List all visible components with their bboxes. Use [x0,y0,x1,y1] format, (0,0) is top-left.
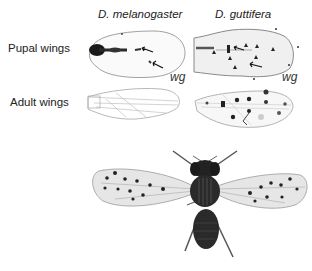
gene-label-wg-guttifera: wg [282,70,297,84]
column-header-guttifera: D. guttifera [215,8,271,20]
row-label-adult-wings: Adult wings [10,96,69,108]
row-label-pupal-wings: Pupal wings [8,42,70,54]
gene-label-wg-melanogaster: wg [170,70,185,84]
adult-wing-melanogaster-image [86,87,186,127]
adult-fly-image [85,143,312,271]
adult-wing-guttifera-image [193,87,298,132]
column-header-melanogaster: D. melanogaster [98,8,182,20]
